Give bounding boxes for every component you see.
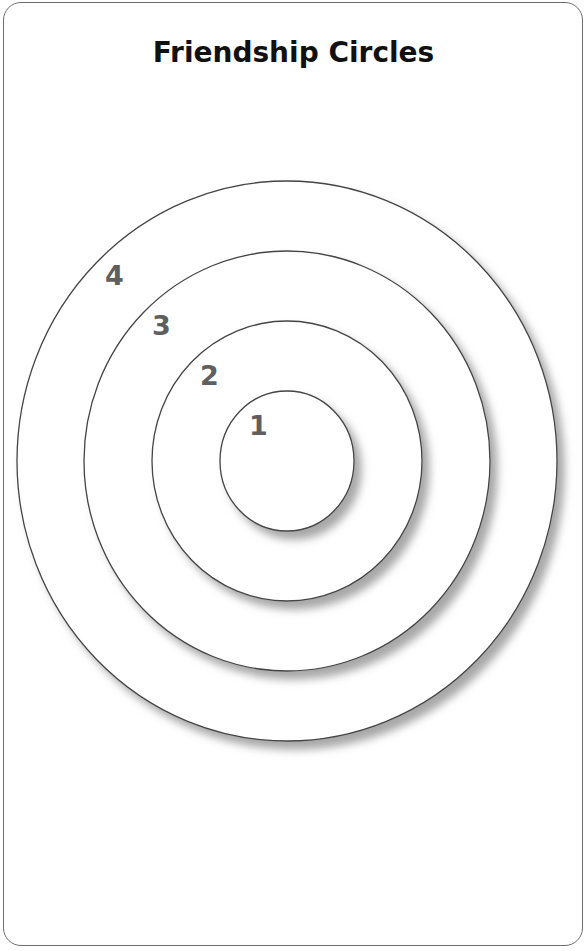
concentric-circles-diagram: 4 3 2 1 [0, 0, 587, 951]
ring-label-4: 4 [105, 260, 124, 291]
ring-label-1: 1 [249, 410, 268, 441]
ring-label-3: 3 [152, 310, 171, 341]
ring-label-2: 2 [200, 360, 219, 391]
ring-1 [220, 391, 354, 531]
